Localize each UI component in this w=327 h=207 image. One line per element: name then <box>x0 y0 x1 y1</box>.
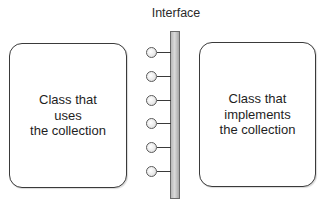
connector-circle-icon <box>146 142 157 153</box>
connector-line <box>157 52 171 53</box>
right-box-line-2: implements <box>220 107 296 123</box>
class-using-collection-text: Class that uses the collection <box>30 92 106 139</box>
connector-circle-icon <box>146 95 157 106</box>
connector-circle-icon <box>146 166 157 177</box>
connector-circle-icon <box>146 47 157 58</box>
connector-circle-icon <box>146 71 157 82</box>
connector-circle-icon <box>146 118 157 129</box>
left-box-line-2: uses <box>30 108 106 124</box>
interface-bar <box>170 31 180 199</box>
interface-connector-5 <box>146 142 171 154</box>
right-box-line-3: the collection <box>220 122 296 138</box>
connector-line <box>157 171 171 172</box>
left-box-line-3: the collection <box>30 123 106 139</box>
interface-connector-2 <box>146 71 171 83</box>
connector-line <box>157 123 171 124</box>
left-box-line-1: Class that <box>30 92 106 108</box>
interface-connector-3 <box>146 95 171 107</box>
connector-line <box>157 76 171 77</box>
interface-connector-6 <box>146 166 171 178</box>
interface-label: Interface <box>140 6 212 20</box>
connector-line <box>157 147 171 148</box>
class-implementing-collection-text: Class that implements the collection <box>220 91 296 138</box>
interface-connector-1 <box>146 47 171 59</box>
connector-line <box>157 100 171 101</box>
class-using-collection-box: Class that uses the collection <box>9 43 127 188</box>
class-implementing-collection-box: Class that implements the collection <box>199 42 316 187</box>
interface-connector-4 <box>146 118 171 130</box>
right-box-line-1: Class that <box>220 91 296 107</box>
